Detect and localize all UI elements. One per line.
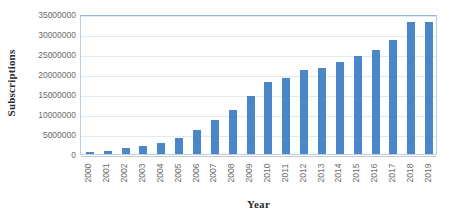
y-axis-tick-labels: 0500000010000000150000002000000025000000… (20, 9, 78, 159)
y-axis-tick-label: 35000000 (20, 11, 76, 20)
x-axis-tick-label-text: 2009 (245, 164, 255, 183)
x-axis-tick-label-text: 2017 (387, 164, 397, 183)
bar[interactable] (300, 70, 308, 154)
bar[interactable] (157, 143, 165, 154)
x-axis-tick-label-text: 2002 (120, 164, 130, 183)
bar[interactable] (372, 50, 380, 154)
bar-slot (135, 16, 153, 154)
x-axis-tick-label-text: 2015 (352, 164, 362, 183)
x-axis-tick-label-text: 2001 (102, 164, 112, 183)
bar-slot (117, 16, 135, 154)
bar[interactable] (247, 96, 255, 154)
x-axis-tick-label-text: 2012 (298, 164, 308, 183)
bar[interactable] (122, 148, 130, 154)
bar[interactable] (407, 22, 415, 154)
bar[interactable] (264, 82, 272, 154)
bar-slot (99, 16, 117, 154)
x-axis-tick-labels: 2000200120022003200420052006200720082009… (80, 157, 437, 195)
bar-slot (277, 16, 295, 154)
x-axis-tick-label-text: 2004 (155, 164, 165, 183)
x-axis-tick-label-text: 2007 (209, 164, 219, 183)
x-axis-tick-label: 2013 (315, 157, 327, 193)
x-axis-tick-label-text: 2005 (173, 164, 183, 183)
bar-slot (384, 16, 402, 154)
x-axis-tick-label: 2017 (386, 157, 398, 193)
x-axis-tick-label-text: 2008 (227, 164, 237, 183)
x-axis-tick-label: 2003 (136, 157, 148, 193)
bar-slot (260, 16, 278, 154)
x-axis-tick-label: 2007 (208, 157, 220, 193)
bar-slot (331, 16, 349, 154)
bar-slot (81, 16, 99, 154)
y-axis-tick-label: 0 (20, 151, 76, 160)
x-axis-tick-label-text: 2016 (370, 164, 380, 183)
x-axis-tick-label: 2011 (279, 157, 291, 193)
bar-slot (349, 16, 367, 154)
bar[interactable] (139, 146, 147, 154)
bar[interactable] (86, 152, 94, 154)
x-axis-tick-label: 2019 (422, 157, 434, 193)
bar-slot (242, 16, 260, 154)
bar[interactable] (282, 78, 290, 154)
bar-slot (313, 16, 331, 154)
x-axis-tick-label-text: 2006 (191, 164, 201, 183)
bar-slot (152, 16, 170, 154)
bar[interactable] (193, 130, 201, 154)
x-axis-tick-label-text: 2019 (423, 164, 433, 183)
x-axis-tick-label-text: 2014 (334, 164, 344, 183)
bar-slot (170, 16, 188, 154)
bar[interactable] (175, 138, 183, 154)
x-axis-tick-label: 2004 (154, 157, 166, 193)
bar[interactable] (389, 40, 397, 154)
bar[interactable] (104, 151, 112, 154)
bar-chart: Subscriptions 05000000100000001500000020… (0, 0, 460, 221)
y-axis-tick-label: 25000000 (20, 51, 76, 60)
x-axis-tick-label: 2014 (333, 157, 345, 193)
bar-slot (224, 16, 242, 154)
bar[interactable] (336, 62, 344, 154)
x-axis-tick-label: 2008 (226, 157, 238, 193)
x-axis-tick-label: 2002 (119, 157, 131, 193)
x-axis-tick-label-text: 2011 (280, 164, 290, 182)
bar[interactable] (318, 68, 326, 154)
bar-slot (402, 16, 420, 154)
x-axis-tick-label-text: 2013 (316, 164, 326, 183)
bar-slot (188, 16, 206, 154)
y-axis-tick-label: 20000000 (20, 71, 76, 80)
bar[interactable] (354, 56, 362, 154)
y-axis-tick-label: 5000000 (20, 131, 76, 140)
x-axis-tick-label-text: 2000 (84, 164, 94, 183)
plot-area (80, 15, 437, 155)
x-axis-tick-label: 2010 (261, 157, 273, 193)
bars-layer (81, 16, 436, 154)
x-axis-tick-label: 2015 (351, 157, 363, 193)
x-axis-tick-label: 2018 (404, 157, 416, 193)
x-axis-tick-label-text: 2010 (262, 164, 272, 183)
bar-slot (420, 16, 438, 154)
x-axis-tick-label-text: 2003 (137, 164, 147, 183)
x-axis-tick-label: 2006 (190, 157, 202, 193)
bar-slot (206, 16, 224, 154)
x-axis-tick-label: 2000 (83, 157, 95, 193)
y-axis-tick-label: 30000000 (20, 31, 76, 40)
x-axis-tick-label: 2012 (297, 157, 309, 193)
x-axis-tick-label: 2016 (369, 157, 381, 193)
bar[interactable] (229, 110, 237, 154)
y-axis-title-label: Subscriptions (5, 49, 17, 116)
bar[interactable] (425, 22, 433, 154)
y-axis-title: Subscriptions (0, 0, 22, 165)
bar-slot (295, 16, 313, 154)
x-axis-title: Year (80, 198, 437, 210)
bar[interactable] (211, 120, 219, 154)
x-axis-tick-label: 2005 (172, 157, 184, 193)
x-axis-tick-label: 2001 (101, 157, 113, 193)
x-axis-tick-label-text: 2018 (405, 164, 415, 183)
bar-slot (367, 16, 385, 154)
x-axis-tick-label: 2009 (244, 157, 256, 193)
y-axis-tick-label: 15000000 (20, 91, 76, 100)
y-axis-tick-label: 10000000 (20, 111, 76, 120)
